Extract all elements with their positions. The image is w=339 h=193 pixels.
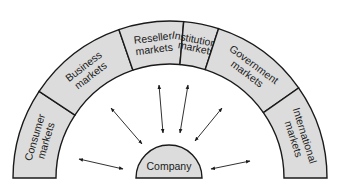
segment-label-reseller: Resellermarkets <box>133 29 175 57</box>
double-arrow-icon <box>159 85 163 133</box>
double-arrow-icon <box>195 108 222 141</box>
customer-markets-diagram: ConsumermarketsBusinessmarketsResellerma… <box>0 0 339 193</box>
double-arrow-icon <box>180 85 188 133</box>
double-arrow-icon <box>211 161 250 169</box>
double-arrow-icon <box>111 108 142 144</box>
company-label: Company <box>147 160 193 172</box>
double-arrow-icon <box>79 159 123 169</box>
company-node: Company <box>136 145 202 178</box>
